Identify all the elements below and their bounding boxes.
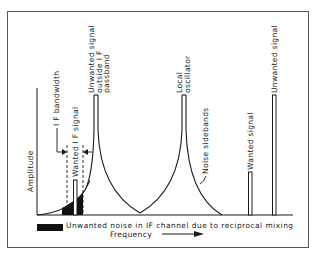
unwanted-outside-left-sideband xyxy=(37,95,94,215)
wanted-if-signal-label: Wanted I F signal xyxy=(71,107,80,177)
lo-left-sideband xyxy=(140,95,182,213)
unwanted-outside-label-3: passband xyxy=(102,54,111,93)
x-axis-label: Frequency xyxy=(110,230,152,239)
spectrum-diagram: Amplitude I F bandwidth Wanted I F signa… xyxy=(0,0,316,255)
unwanted-signal-bar xyxy=(273,95,277,215)
wanted-if-signal-bar xyxy=(74,180,78,215)
if-bandwidth-label: I F bandwidth xyxy=(52,71,61,126)
local-oscillator-label-2: oscillator xyxy=(183,55,192,93)
wanted-signal-bar xyxy=(249,172,253,215)
legend-swatch xyxy=(37,224,63,231)
legend-text: Unwanted noise in IF channel due to reci… xyxy=(66,222,296,230)
wanted-signal-label: Wanted signal xyxy=(246,112,255,170)
if-bw-arrow-left-icon xyxy=(62,149,67,155)
noise-sidebands-leader xyxy=(200,176,206,184)
noise-shaded-region-2 xyxy=(62,195,83,215)
unwanted-signal-label: Unwanted signal xyxy=(270,25,279,93)
noise-sidebands-label: Noise sidebands xyxy=(201,107,210,174)
frequency-arrow-icon xyxy=(194,231,204,237)
unwanted-outside-right-sideband xyxy=(98,95,140,213)
if-bw-arrow-right-icon xyxy=(83,149,88,155)
y-axis-label: Amplitude xyxy=(26,150,35,192)
